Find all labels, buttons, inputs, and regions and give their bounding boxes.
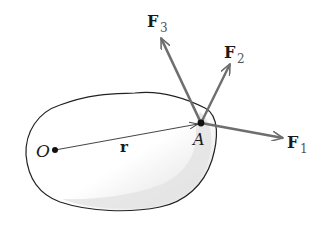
- force-label-f2-name: F: [224, 43, 236, 62]
- origin-label: O: [36, 141, 50, 161]
- force-label-f3-subscript: 3: [160, 21, 168, 35]
- force-arrow-f2: [201, 64, 230, 123]
- force-label-f3: F 3: [147, 12, 168, 35]
- position-vector-label: r: [120, 138, 129, 156]
- force-diagram: O A r F 1 F 2 F 3: [0, 0, 326, 225]
- point-a: [198, 120, 205, 127]
- force-label-f1-subscript: 1: [300, 142, 308, 156]
- force-label-f1-name: F: [287, 133, 299, 152]
- force-label-f3-name: F: [147, 12, 159, 31]
- force-label-f2-subscript: 2: [237, 52, 245, 66]
- force-label-f1: F 1: [287, 133, 308, 156]
- force-label-f2: F 2: [224, 43, 245, 66]
- origin-point: [52, 147, 58, 153]
- point-a-label: A: [191, 130, 205, 149]
